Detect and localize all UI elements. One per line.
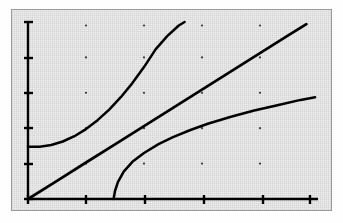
series-logarithmic-curve <box>114 97 316 199</box>
figure-page <box>0 0 343 223</box>
series-linear-line <box>28 24 306 199</box>
grid-dots <box>85 24 261 164</box>
series-exponential-curve <box>28 22 185 147</box>
plot-area <box>12 10 331 210</box>
chart-canvas <box>12 10 331 210</box>
plot-frame <box>11 9 332 211</box>
